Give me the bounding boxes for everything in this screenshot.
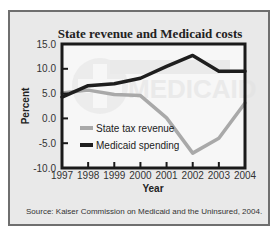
x-tick-label: 2002 (182, 170, 205, 181)
y-tick-label: 15.0 (37, 39, 57, 50)
x-tick-label: 1999 (103, 170, 126, 181)
y-tick-label: 5.0 (42, 88, 56, 99)
x-tick-label: 1998 (77, 170, 100, 181)
y-tick-label: 10.0 (37, 63, 57, 74)
x-tick-label: 1997 (51, 170, 74, 181)
legend-swatch (80, 126, 93, 130)
x-tick-label: 2000 (129, 170, 152, 181)
line-chart: MEDICAID 15.010.05.00.0-5.0-10.019971998… (0, 0, 278, 234)
y-axis-label: Percent (20, 87, 31, 124)
legend-label: State tax revenue (96, 123, 175, 134)
legend-label: Medicaid spending (96, 140, 179, 151)
y-tick-label: 0.0 (42, 113, 56, 124)
y-tick-label: -5.0 (39, 138, 57, 149)
x-axis-label: Year (142, 183, 163, 194)
legend-swatch (80, 143, 93, 147)
x-tick-label: 2003 (208, 170, 231, 181)
x-tick-label: 2001 (155, 170, 178, 181)
x-tick-label: 2004 (234, 170, 257, 181)
